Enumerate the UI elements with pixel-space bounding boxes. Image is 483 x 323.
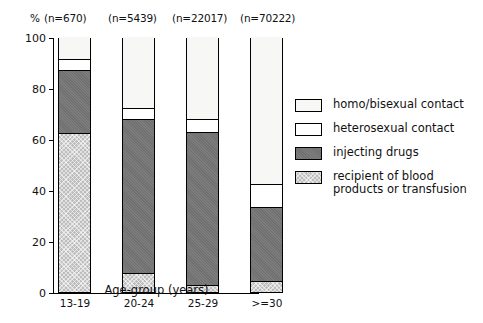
sample-size-label-13-19: (n=670) [44,12,86,24]
sample-size-label-20-24: (n=5439) [108,12,157,24]
sample-size-label-row: (n=670) (n=5439) (n=22017) (n=70222) [0,12,300,28]
x-tick-label-30plus: >=30 [252,297,283,309]
x-axis-title: Age-group (years) [54,283,259,297]
bar-segment-hetero [251,184,282,208]
legend-label-homo: homo/bisexual contact [333,98,464,111]
bar-20-24[interactable] [122,38,155,293]
sample-size-label-30plus: (n=70222) [240,12,295,24]
bar-segment-inject [123,120,154,274]
legend-swatch-hetero-icon [295,123,322,136]
chart-legend: homo/bisexual contact heterosexual conta… [295,98,480,196]
bar-segment-homo [59,37,90,59]
y-tick-label-40: 40 [32,186,46,197]
legend-swatch-homo-icon [295,99,322,112]
legend-item-blood-products[interactable]: recipient of blood products or transfusi… [295,170,480,196]
y-tick-60 [49,140,54,141]
bar-segment-hetero [59,59,90,72]
stacked-bar-chart: % (n=670) (n=5439) (n=22017) (n=70222) 0… [0,0,483,323]
legend-item-homo-bisexual-contact[interactable]: homo/bisexual contact [295,98,480,112]
bar-13-19[interactable] [58,38,91,293]
y-tick-label-0: 0 [39,288,46,299]
bar-30plus[interactable] [250,38,283,293]
bar-segment-inject [187,133,218,286]
legend-swatch-inject-icon [295,147,322,160]
x-tick-label-20-24: 20-24 [124,297,155,309]
y-tick-40 [49,191,54,192]
x-tick-label-13-19: 13-19 [60,297,91,309]
legend-label-blood: recipient of blood products or transfusi… [333,170,467,196]
legend-label-hetero: heterosexual contact [333,122,454,135]
x-tick-label-25-29: 25-29 [188,297,219,309]
sample-size-label-25-29: (n=22017) [172,12,227,24]
y-tick-label-100: 100 [25,33,46,44]
legend-item-heterosexual-contact[interactable]: heterosexual contact [295,122,480,136]
bar-segment-homo [123,37,154,108]
legend-swatch-blood-icon [295,171,322,184]
bar-segment-homo [251,37,282,184]
legend-item-injecting-drugs[interactable]: injecting drugs [295,146,480,160]
bar-segment-hetero [187,119,218,133]
y-tick-20 [49,242,54,243]
y-axis-line [53,38,54,293]
bar-segment-blood [59,134,90,292]
bar-segment-homo [187,37,218,119]
y-tick-label-60: 60 [32,135,46,146]
bar-25-29[interactable] [186,38,219,293]
bar-segment-hetero [123,108,154,119]
legend-label-inject: injecting drugs [333,146,419,159]
bar-segment-inject [59,71,90,133]
bar-segment-inject [251,208,282,282]
y-tick-label-20: 20 [32,237,46,248]
y-tick-80 [49,89,54,90]
y-tick-100 [49,38,54,39]
plot-area: 0 20 40 60 80 100 13-19 20-24 25-29 >=30 [54,38,259,293]
y-tick-label-80: 80 [32,84,46,95]
